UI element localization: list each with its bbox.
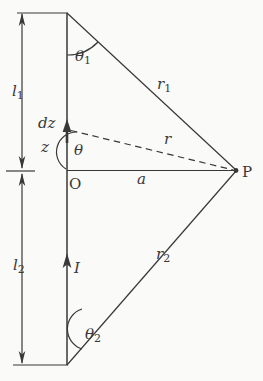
- origin-label: O: [69, 175, 81, 193]
- r-label: r: [164, 130, 172, 148]
- point-p-dot: [234, 168, 239, 173]
- biot-savart-wire-diagram: l1 l2 θ1 θ2 r1 r2 r dz z θ O a I P: [0, 0, 263, 381]
- a-label: a: [137, 170, 146, 188]
- physics-figure: l1 l2 θ1 θ2 r1 r2 r dz z θ O a I P: [0, 0, 263, 381]
- theta-label: θ: [74, 141, 83, 159]
- point-p-label: P: [242, 163, 252, 181]
- z-label: z: [40, 138, 49, 156]
- dz-label: dz: [38, 114, 56, 132]
- current-label: I: [73, 259, 81, 277]
- paper-background: [0, 0, 263, 381]
